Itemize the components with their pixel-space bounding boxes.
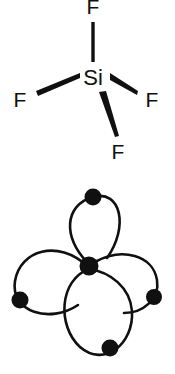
node-dot-center [80, 257, 99, 276]
figure-canvas: Si F F F F [0, 0, 175, 374]
atom-label-f-right: F [146, 88, 159, 111]
bond-si-f-right-wedge [110, 73, 138, 95]
atom-label-f-left: F [14, 88, 27, 111]
bond-si-f-bottom-wedge [99, 91, 119, 137]
sif4-figure: Si F F F F [0, 0, 175, 374]
node-dot-right [146, 289, 162, 305]
atom-label-f-bottom-right: F [112, 140, 125, 163]
bond-si-f-left-wedge [36, 73, 80, 96]
molecule-sif4: Si F F F F [14, 0, 159, 163]
node-dot-top [85, 189, 102, 206]
node-dot-bottom [102, 340, 119, 357]
orbital-diagram [12, 189, 163, 357]
atom-label-f-top: F [87, 0, 100, 18]
lobe-right [95, 254, 157, 313]
lobe-top [70, 196, 120, 262]
atom-label-si: Si [83, 65, 103, 90]
node-dot-left [12, 292, 29, 309]
lobe-bottom [64, 269, 132, 355]
